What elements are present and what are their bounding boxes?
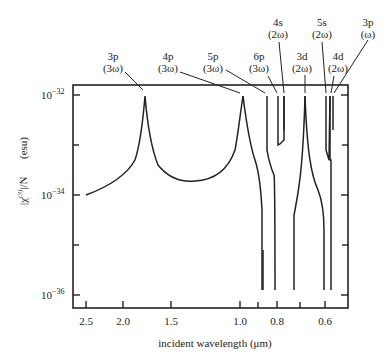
peak-label-4d-2w: 4d (2ω) [328,50,348,75]
svg-text:(ω): (ω) [361,28,376,41]
svg-text:5p: 5p [208,50,220,62]
x-tick-labels: 2.5 2.0 1.5 1.0 0.8 0.6 [79,315,332,327]
y-tick-label: 10−36 [41,287,65,301]
svg-text:1.5: 1.5 [164,315,178,327]
svg-text:(esu): (esu) [17,137,30,159]
svg-text:0.6: 0.6 [318,315,332,327]
svg-text:4p: 4p [163,50,175,62]
svg-text:3d: 3d [297,50,309,62]
svg-text:(2ω): (2ω) [292,62,312,75]
svg-text:3p: 3p [108,50,120,62]
peak-label-5p-3w: 5p (3ω) [203,50,223,75]
svg-text:0.8: 0.8 [270,315,284,327]
peak-label-5s-2w: 5s (2ω) [312,16,332,41]
peak-label-3d-2w: 3d (2ω) [292,50,312,75]
svg-text:(2ω): (2ω) [268,28,288,41]
svg-text:2.0: 2.0 [116,315,130,327]
svg-text:4s: 4s [273,16,283,28]
svg-text:2.5: 2.5 [79,315,93,327]
svg-text:(3ω): (3ω) [203,62,223,75]
x-ticks [86,301,325,308]
svg-text:1.0: 1.0 [233,315,247,327]
svg-text:(3ω): (3ω) [103,62,123,75]
svg-text:(3ω): (3ω) [249,62,269,75]
svg-text:3p: 3p [363,16,375,28]
peak-label-3p-w: 3p (ω) [361,16,376,41]
peak-label-4s-2w: 4s (2ω) [268,16,288,41]
svg-text:(2ω): (2ω) [328,62,348,75]
y-tick-label: 10−32 [41,87,65,101]
peak-label-6p-3w: 6p (3ω) [249,50,269,75]
svg-text:(2ω): (2ω) [312,28,332,41]
y-tick-label: 10−34 [41,187,65,201]
svg-text:6p: 6p [254,50,266,62]
chart-svg: 10−32 10−34 10−36 2.5 2.0 1.5 1.0 0.8 0.… [0,0,385,359]
y-axis-title: |χ(3)|/N (esu) [16,137,30,205]
peak-label-4p-3w: 4p (3ω) [158,50,178,75]
chi3-curve [86,96,333,290]
x-axis-title: incident wavelength (μm) [158,337,272,350]
svg-text:(3ω): (3ω) [158,62,178,75]
svg-text:5s: 5s [317,16,327,28]
svg-text:4d: 4d [333,50,345,62]
y-tick-labels: 10−32 10−34 10−36 [41,87,65,301]
svg-text:|χ(3)|/N: |χ(3)|/N [16,176,29,205]
peak-labels: 3p (3ω) 4p (3ω) 5p (3ω) 6p (3ω) 4s (2ω) … [103,16,376,75]
peak-label-3p-3w: 3p (3ω) [103,50,123,75]
